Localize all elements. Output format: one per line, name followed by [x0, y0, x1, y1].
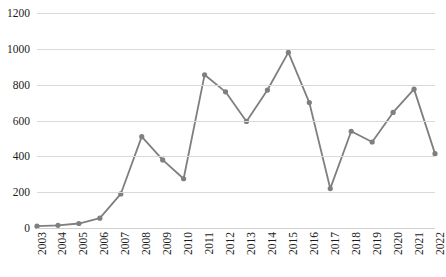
x-tick-label: 2021 [413, 232, 425, 255]
x-tick-label: 2016 [308, 232, 320, 255]
x-tick-label: 2020 [392, 232, 404, 255]
x-tick-label: 2019 [371, 232, 383, 255]
x-tick-label: 2010 [182, 232, 194, 255]
gridline [37, 192, 435, 193]
data-point-marker [307, 100, 312, 105]
x-tick-label: 2008 [140, 232, 152, 255]
data-point-marker [391, 110, 396, 115]
x-tick-label: 2007 [119, 232, 131, 255]
data-point-marker [411, 87, 416, 92]
data-point-marker [76, 221, 81, 226]
data-point-marker [139, 134, 144, 139]
data-point-marker [265, 87, 270, 92]
data-point-marker [328, 186, 333, 191]
x-tick-label: 2005 [77, 232, 89, 255]
x-tick-label: 2012 [224, 232, 236, 255]
data-point-marker [202, 72, 207, 77]
gridline [37, 13, 435, 14]
data-point-marker [160, 157, 165, 162]
x-tick-label: 2015 [287, 232, 299, 255]
x-tick-label: 2006 [98, 232, 110, 255]
y-tick-label: 200 [13, 186, 30, 198]
data-point-marker [370, 139, 375, 144]
plot-area [37, 13, 435, 228]
x-tick-label: 2003 [36, 232, 48, 255]
y-tick-label: 0 [24, 222, 30, 234]
gridline [37, 156, 435, 157]
y-tick-label: 800 [13, 79, 30, 91]
y-tick-label: 1000 [7, 43, 30, 55]
series-polyline [37, 52, 435, 226]
x-tick-label: 2004 [56, 232, 68, 255]
x-tick-label: 2018 [350, 232, 362, 255]
x-tick-label: 2014 [266, 232, 278, 255]
x-axis: 2003200420052006200720082009201020112012… [37, 228, 435, 277]
y-tick-label: 400 [13, 150, 30, 162]
data-point-marker [349, 129, 354, 134]
data-point-marker [97, 216, 102, 221]
gridline [37, 49, 435, 50]
y-axis: 020040060080010001200 [0, 0, 34, 277]
x-tick-label: 2011 [203, 232, 215, 255]
x-tick-label: 2009 [161, 232, 173, 255]
data-point-marker [181, 176, 186, 181]
gridline [37, 85, 435, 86]
gridline [37, 121, 435, 122]
x-tick-label: 2022 [434, 232, 446, 255]
x-tick-label: 2017 [329, 232, 341, 255]
x-tick-label: 2013 [245, 232, 257, 255]
data-point-marker [286, 50, 291, 55]
y-tick-label: 1200 [7, 7, 30, 19]
data-point-marker [223, 89, 228, 94]
y-tick-label: 600 [13, 115, 30, 127]
